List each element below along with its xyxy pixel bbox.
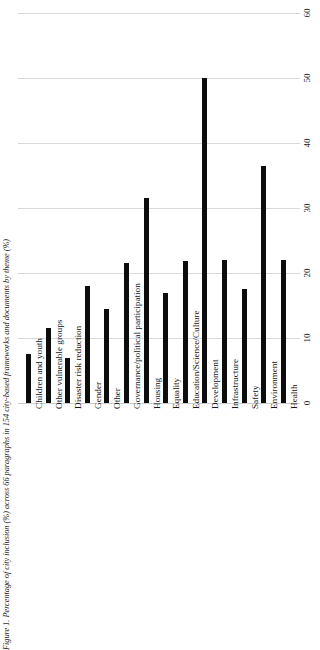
bar[interactable]	[104, 309, 109, 403]
bar[interactable]	[222, 260, 227, 403]
bar[interactable]	[202, 78, 207, 403]
bar-item[interactable]: Health	[275, 0, 293, 650]
figure-caption-strip: Figure 1. Percentage of city inclusion (…	[0, 0, 14, 650]
y-tick-label-30: 30	[301, 197, 313, 219]
y-tick-label-10: 10	[301, 327, 313, 349]
bar-item[interactable]: Development	[196, 0, 214, 650]
bar[interactable]	[26, 354, 31, 403]
bar[interactable]	[65, 358, 70, 404]
bar-chart: 0102030405060 Children and youthOther vu…	[14, 0, 320, 650]
bar[interactable]	[124, 263, 129, 403]
bar[interactable]	[85, 286, 90, 403]
bar-item[interactable]: Safety	[236, 0, 254, 650]
bar-item[interactable]: Housing	[138, 0, 156, 650]
y-tick-label-60: 60	[301, 2, 313, 24]
bar-item[interactable]: Gender	[79, 0, 97, 650]
bar[interactable]	[183, 261, 188, 403]
bar[interactable]	[163, 293, 168, 404]
category-label: Health	[289, 385, 300, 410]
figure-caption: Figure 1. Percentage of city inclusion (…	[0, 0, 14, 650]
bar[interactable]	[261, 166, 266, 403]
bar[interactable]	[242, 289, 247, 403]
y-tick-label-20: 20	[301, 262, 313, 284]
bar-item[interactable]: Other	[98, 0, 116, 650]
y-tick-label-0: 0	[301, 392, 313, 414]
bar[interactable]	[281, 260, 286, 403]
bar-item[interactable]: Governance/political participation	[118, 0, 136, 650]
bar-item[interactable]: Education/Science/Culture	[177, 0, 195, 650]
bar-item[interactable]: Infrastructure	[216, 0, 234, 650]
bar[interactable]	[144, 198, 149, 403]
bar-item[interactable]: Equality	[157, 0, 175, 650]
bar-item[interactable]: Children and youth	[20, 0, 38, 650]
bar-item[interactable]: Other vulnerable groups	[40, 0, 58, 650]
bar[interactable]	[46, 328, 51, 403]
y-tick-label-40: 40	[301, 132, 313, 154]
bar-item[interactable]: Environment	[255, 0, 273, 650]
bar-item[interactable]: Disaster risk reduction	[59, 0, 77, 650]
y-tick-label-50: 50	[301, 67, 313, 89]
